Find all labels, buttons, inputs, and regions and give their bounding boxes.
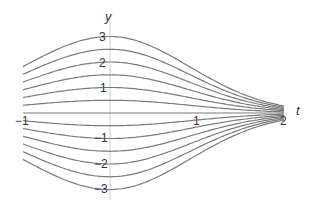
y-tick-1: 1 — [100, 82, 107, 94]
solution-curve — [23, 114, 284, 126]
t-tick-neg1: −1 — [15, 115, 29, 127]
y-tick-neg3: −3 — [94, 183, 108, 195]
solution-curve — [23, 115, 284, 138]
y-axis-label: y — [105, 10, 112, 23]
solution-curves — [23, 37, 284, 190]
solution-curve — [23, 37, 284, 107]
t-tick-2: 2 — [280, 115, 287, 127]
y-tick-neg1: −1 — [94, 132, 108, 144]
t-axis-label: t — [296, 104, 300, 117]
y-tick-2: 2 — [99, 57, 106, 69]
solution-curve — [23, 75, 284, 110]
y-tick-3: 3 — [99, 31, 106, 43]
solution-curve — [23, 119, 284, 177]
chart-plot — [0, 0, 318, 208]
solution-curve — [23, 49, 284, 107]
y-tick-neg2: −2 — [94, 158, 108, 170]
solution-curve — [23, 100, 284, 112]
t-tick-1: 1 — [193, 115, 200, 127]
solution-curve — [23, 120, 284, 190]
solution-curve — [23, 117, 284, 152]
solution-curve — [23, 88, 284, 111]
